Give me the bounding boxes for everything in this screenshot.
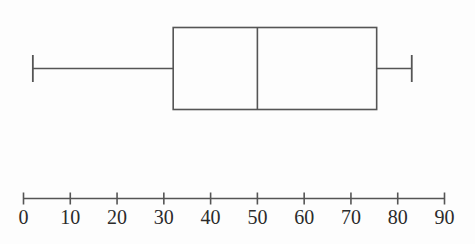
x-axis-tick-label: 90 <box>435 207 455 227</box>
x-axis-tick-label: 80 <box>388 207 408 227</box>
x-axis-tick-label: 40 <box>201 207 221 227</box>
x-axis-tick-label: 10 <box>60 207 80 227</box>
x-axis-tick-label: 60 <box>294 207 314 227</box>
x-axis-tick-label: 0 <box>19 207 29 227</box>
x-axis-tick-label: 30 <box>154 207 174 227</box>
interquartile-box <box>173 28 376 110</box>
x-axis-tick-label: 50 <box>247 207 267 227</box>
x-axis-tick-label: 20 <box>107 207 127 227</box>
x-axis-tick-label: 70 <box>341 207 361 227</box>
box-plot-figure: 0102030405060708090 <box>0 0 475 244</box>
